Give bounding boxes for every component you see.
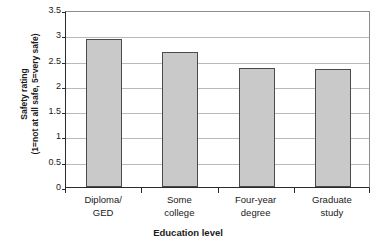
x-category-label: Somecollege <box>141 194 217 224</box>
y-tick-mark <box>62 37 66 38</box>
y-tick-mark <box>62 164 66 165</box>
x-tick-mark <box>218 188 219 193</box>
bar <box>315 69 351 187</box>
y-tick-label: 3.5 <box>35 6 61 15</box>
plot-area <box>65 11 370 188</box>
x-tick-mark <box>294 188 295 193</box>
x-category-label-line: Diploma/ <box>65 194 141 207</box>
x-tick-mark <box>369 188 370 193</box>
x-category-label-line: Four-year <box>218 194 294 207</box>
y-tick-label: 3 <box>35 31 61 40</box>
y-tick-mark <box>62 113 66 114</box>
x-category-label-line: GED <box>65 207 141 220</box>
x-category-label-line: Graduate <box>294 194 370 207</box>
y-tick-mark <box>62 63 66 64</box>
bar <box>239 68 275 187</box>
y-axis-title: Safety rating (1=not at all safe, 5=very… <box>0 0 34 190</box>
x-category-label-line: Some <box>141 194 217 207</box>
bar-series <box>66 12 369 187</box>
y-tick-mark <box>62 88 66 89</box>
bar <box>162 52 198 187</box>
x-category-label: Four-yeardegree <box>218 194 294 224</box>
x-category-label-line: degree <box>218 207 294 220</box>
x-category-label-line: study <box>294 207 370 220</box>
y-tick-label: 1.5 <box>35 107 61 116</box>
y-tick-label: 2 <box>35 82 61 91</box>
y-tick-mark <box>62 12 66 13</box>
y-tick-label: 0 <box>35 183 61 192</box>
y-tick-label: 0.5 <box>35 158 61 167</box>
x-category-label: Graduatestudy <box>294 194 370 224</box>
y-axis-title-line1: Safety rating <box>19 4 30 184</box>
y-tick-mark <box>62 138 66 139</box>
x-category-label-line: college <box>141 207 217 220</box>
x-category-label: Diploma/GED <box>65 194 141 224</box>
bar <box>86 39 122 187</box>
y-axis-tick-labels: 3.532.521.510.50 <box>33 0 61 190</box>
x-tick-mark <box>141 188 142 193</box>
y-tick-label: 1 <box>35 132 61 141</box>
bar-chart-figure: Safety rating (1=not at all safe, 5=very… <box>0 0 376 243</box>
y-tick-label: 2.5 <box>35 57 61 66</box>
x-axis-category-labels: Diploma/GEDSomecollegeFour-yeardegreeGra… <box>65 194 370 224</box>
x-axis-title: Education level <box>0 227 376 238</box>
x-tick-mark <box>65 188 66 193</box>
